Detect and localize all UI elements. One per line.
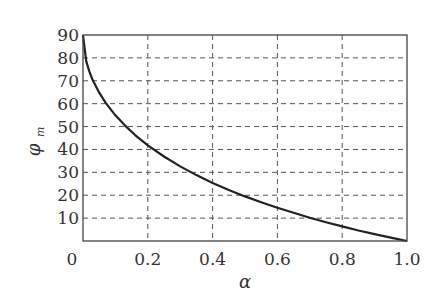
x-axis-ticks: 00.20.40.60.81.0	[67, 249, 421, 269]
y-tick-label: 20	[57, 185, 79, 205]
y-tick-label: 70	[57, 71, 79, 91]
y-axis-label-subscript: m	[34, 127, 47, 137]
y-tick-label: 30	[57, 162, 79, 182]
y-axis-label-main: φ	[23, 143, 44, 156]
y-axis-label: φ m	[23, 127, 47, 157]
data-curve	[83, 35, 407, 241]
x-axis-label: α	[239, 271, 251, 292]
x-tick-label: 0.8	[329, 249, 356, 269]
y-tick-label: 90	[57, 25, 79, 45]
y-tick-label: 40	[57, 139, 79, 159]
x-tick-label: 0.6	[264, 249, 291, 269]
x-tick-label: 1.0	[393, 249, 420, 269]
x-tick-label: 0	[67, 249, 78, 269]
y-tick-label: 50	[57, 117, 79, 137]
curve-layer	[83, 35, 407, 241]
plot-frame	[83, 35, 407, 241]
y-axis-ticks: 102030405060708090	[57, 25, 79, 228]
x-tick-label: 0.4	[199, 249, 226, 269]
chart: 102030405060708090 00.20.40.60.81.0 α φ …	[0, 0, 437, 299]
y-tick-label: 10	[57, 208, 79, 228]
y-tick-label: 80	[57, 48, 79, 68]
y-tick-label: 60	[57, 94, 79, 114]
x-tick-label: 0.2	[134, 249, 161, 269]
grid-lines	[83, 35, 407, 241]
